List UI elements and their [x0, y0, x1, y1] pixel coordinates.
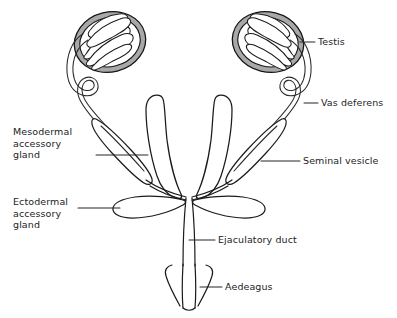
label-seminal-vesicle: Seminal vesicle — [303, 155, 379, 167]
label-mesodermal-accessory-gland: Mesodermal accessory gland — [13, 126, 72, 161]
diagram-figure: Testis Vas deferens Mesodermal accessory… — [0, 0, 397, 318]
ejaculatory-duct — [183, 198, 195, 266]
mesodermal-accessory-gland-left — [92, 119, 152, 185]
ectodermal-accessory-gland-left — [113, 196, 186, 218]
label-vas-deferens: Vas deferens — [321, 97, 383, 109]
label-ejaculatory-duct: Ejaculatory duct — [218, 234, 297, 246]
testis-right — [226, 4, 310, 80]
testis-left — [68, 4, 152, 80]
ectodermal-accessory-gland-right — [193, 196, 266, 218]
label-ectodermal-accessory-gland: Ectodermal accessory gland — [13, 196, 68, 231]
seminal-vesicle-right — [226, 119, 286, 185]
label-testis: Testis — [318, 36, 345, 48]
label-aedeagus: Aedeagus — [225, 281, 273, 293]
